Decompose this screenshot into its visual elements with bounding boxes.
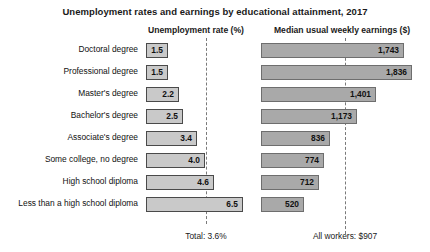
unemployment-bar-track: 2.5 [146,109,250,124]
earnings-bar-track: 520 [261,197,425,212]
earnings-bar: 836 [261,131,330,146]
unemployment-bar-value: 1.5 [151,46,167,54]
unemployment-bar-value: 3.4 [180,134,196,142]
earnings-bar: 1,743 [261,43,404,58]
unemployment-bar: 2.5 [146,109,183,124]
category-label: Some college, no degree [0,151,142,168]
earnings-bar: 1,836 [261,65,412,80]
category-label: Bachelor's degree [0,107,142,124]
earnings-bar: 520 [261,197,304,212]
footnote-total-unemployment: Total: 3.6% [156,231,256,241]
category-label: Professional degree [0,63,142,80]
unemployment-bar-value: 6.5 [226,200,242,208]
column-header-unemployment-rate: Unemployment rate (%) [140,25,252,35]
earnings-bar-track: 712 [261,175,425,190]
unemployment-bar-value: 1.5 [151,68,167,76]
category-label: Less than a high school diploma [0,195,142,212]
unemployment-bar-value: 2.2 [162,90,178,98]
earnings-bar: 1,401 [261,87,376,102]
earnings-bar-value: 1,401 [350,90,375,98]
unemployment-bar: 1.5 [146,43,168,58]
unemployment-bar: 4.0 [146,153,205,168]
unemployment-bar: 4.6 [146,175,214,190]
earnings-bar-value: 1,836 [386,68,411,76]
earnings-bar-value: 520 [285,200,303,208]
earnings-bar-track: 1,743 [261,43,425,58]
earnings-bar: 774 [261,153,324,168]
unemployment-bar-value: 2.5 [166,112,182,120]
unemployment-bar-track: 4.6 [146,175,250,190]
unemployment-bar: 3.4 [146,131,197,146]
unemployment-bar-track: 6.5 [146,197,250,212]
chart-row: Bachelor's degree2.51,173 [0,107,430,129]
chart-row: High school diploma4.6712 [0,173,430,195]
unemployment-bar-track: 1.5 [146,65,250,80]
unemployment-bar-track: 1.5 [146,43,250,58]
category-label: Associate's degree [0,129,142,146]
chart-row: Professional degree1.51,836 [0,63,430,85]
earnings-bar-track: 774 [261,153,425,168]
unemployment-bar-track: 2.2 [146,87,250,102]
unemployment-bar-track: 4.0 [146,153,250,168]
category-label: High school diploma [0,173,142,190]
chart-row: Doctoral degree1.51,743 [0,41,430,63]
unemployment-bar: 2.2 [146,87,179,102]
chart-rows: Doctoral degree1.51,743Professional degr… [0,41,430,217]
unemployment-bar-value: 4.6 [197,178,213,186]
chart-row: Less than a high school diploma6.5520 [0,195,430,217]
category-label: Doctoral degree [0,41,142,58]
earnings-bar: 1,173 [261,109,357,124]
earnings-bar-value: 1,743 [378,46,403,54]
earnings-bar-track: 1,401 [261,87,425,102]
earnings-bar-value: 712 [300,178,318,186]
chart-row: Associate's degree3.4836 [0,129,430,151]
earnings-bar: 712 [261,175,319,190]
earnings-bar-value: 1,173 [331,112,356,120]
column-header-median-weekly-earnings: Median usual weekly earnings ($) [258,25,426,35]
unemployment-bar: 1.5 [146,65,168,80]
chart-canvas: Unemployment rates and earnings by educa… [0,0,430,252]
earnings-bar-value: 774 [305,156,323,164]
earnings-bar-track: 1,173 [261,109,425,124]
unemployment-bar-value: 4.0 [188,156,204,164]
earnings-bar-track: 1,836 [261,65,425,80]
unemployment-bar-track: 3.4 [146,131,250,146]
footnote-all-workers-earnings: All workers: $907 [295,231,395,241]
earnings-bar-track: 836 [261,131,425,146]
chart-row: Some college, no degree4.0774 [0,151,430,173]
unemployment-bar: 6.5 [146,197,243,212]
earnings-bar-value: 836 [311,134,329,142]
chart-row: Master's degree2.21,401 [0,85,430,107]
category-label: Master's degree [0,85,142,102]
page-title: Unemployment rates and earnings by educa… [0,6,430,17]
